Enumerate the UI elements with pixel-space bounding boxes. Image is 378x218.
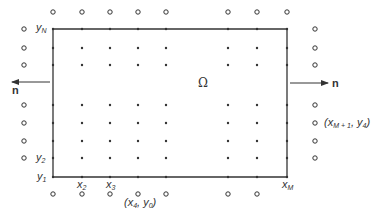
grid-point [109, 64, 111, 66]
grid-point [137, 47, 139, 49]
grid-point [165, 122, 167, 124]
grid-point [52, 176, 54, 178]
label-x2: x2 [76, 178, 87, 191]
ghost-point [22, 63, 26, 67]
grid-point [165, 47, 167, 49]
grid-point [52, 104, 54, 106]
grid-point [165, 104, 167, 106]
grid-point [109, 104, 111, 106]
ghost-point [22, 46, 26, 50]
ghost-point [22, 121, 26, 125]
grid-point [256, 140, 258, 142]
normal-arrow-left: n [12, 82, 50, 96]
ghost-point [313, 46, 317, 50]
grid-point [286, 47, 288, 49]
grid-point [256, 104, 258, 106]
grid-point [165, 157, 167, 159]
grid-point [52, 140, 54, 142]
grid-point [227, 140, 229, 142]
grid-point [81, 47, 83, 49]
ghost-point [22, 156, 26, 160]
ghost-point [22, 139, 26, 143]
ghost-point [108, 10, 112, 14]
grid-point [286, 64, 288, 66]
grid-point [227, 122, 229, 124]
grid-point [256, 157, 258, 159]
grid-point [227, 47, 229, 49]
ghost-point [313, 139, 317, 143]
grid-point [227, 64, 229, 66]
grid-point [137, 122, 139, 124]
grid-point [81, 122, 83, 124]
normal-arrow-right: n [290, 77, 339, 89]
grid-point [109, 47, 111, 49]
grid-point [109, 28, 111, 30]
domain-symbol: Ω [198, 76, 208, 90]
grid-point [81, 140, 83, 142]
ghost-point [226, 192, 230, 196]
grid-point [52, 28, 54, 30]
grid-point [137, 64, 139, 66]
ghost-point [22, 103, 26, 107]
ghost-point [313, 121, 317, 125]
grid-point [256, 122, 258, 124]
grid-point [109, 122, 111, 124]
grid-point [52, 157, 54, 159]
grid-point [52, 47, 54, 49]
grid-point [81, 104, 83, 106]
grid-point [165, 64, 167, 66]
grid-point [109, 157, 111, 159]
grid-point [256, 176, 258, 178]
grid-point [165, 140, 167, 142]
grid-point [81, 157, 83, 159]
grid-point [109, 140, 111, 142]
ghost-point [313, 27, 317, 31]
ghost-point [136, 10, 140, 14]
grid-point [81, 28, 83, 30]
grid-point [137, 140, 139, 142]
ghost-point [313, 63, 317, 67]
grid-point [286, 157, 288, 159]
grid-point [286, 28, 288, 30]
ghost-point [51, 10, 55, 14]
grid-point [81, 64, 83, 66]
ghost-point [285, 10, 289, 14]
grid-point [137, 176, 139, 178]
grid-point [227, 176, 229, 178]
label-ghost-right: (xM + 1, y4) [324, 116, 370, 129]
ghost-point [255, 10, 259, 14]
normal-label-right: n [332, 77, 339, 89]
grid-points [52, 28, 288, 178]
domain-boundary [53, 29, 287, 177]
ghost-point [164, 192, 168, 196]
label-yN: yN [35, 21, 48, 34]
ghost-point [313, 103, 317, 107]
grid-point [52, 64, 54, 66]
grid-diagram: n n Ω yN y2 y1 x2 x3 xM (x4, y0) (xM + 1… [0, 0, 378, 218]
grid-point [227, 157, 229, 159]
grid-point [165, 28, 167, 30]
grid-point [165, 176, 167, 178]
grid-point [137, 28, 139, 30]
grid-point [286, 104, 288, 106]
ghost-point [108, 192, 112, 196]
ghost-point [22, 27, 26, 31]
label-x3: x3 [105, 178, 116, 191]
ghost-point [164, 10, 168, 14]
ghost-point [255, 192, 259, 196]
normal-label-left: n [12, 84, 19, 96]
ghost-point [226, 10, 230, 14]
label-y1: y1 [36, 170, 47, 183]
grid-point [256, 47, 258, 49]
ghost-point [313, 156, 317, 160]
grid-point [52, 122, 54, 124]
label-ghost-bottom: (x4, y0) [124, 196, 157, 209]
grid-point [227, 28, 229, 30]
label-xM: xM [281, 178, 294, 191]
grid-point [137, 157, 139, 159]
ghost-points [22, 10, 317, 196]
ghost-point [80, 10, 84, 14]
ghost-point [51, 192, 55, 196]
label-y2: y2 [35, 151, 46, 164]
grid-point [227, 104, 229, 106]
